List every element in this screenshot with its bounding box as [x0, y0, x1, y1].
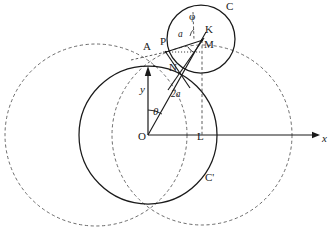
- point-dot-K: [201, 39, 203, 41]
- point-label-M: M: [204, 39, 214, 50]
- angle-theta-label: θ: [153, 106, 158, 117]
- y-axis-arrowhead: [145, 66, 151, 76]
- x-axis-arrowhead: [312, 132, 320, 138]
- segment-a-label: a: [178, 30, 183, 40]
- angle-arc-gamma: [188, 47, 193, 52]
- circle-C-label: C: [226, 1, 233, 12]
- diagram-canvas: [0, 0, 335, 238]
- point-dot-N: [178, 72, 180, 74]
- point-dot-P: [165, 51, 167, 53]
- point-label-A: A: [143, 41, 151, 52]
- point-label-P: P: [160, 36, 166, 47]
- angle-phi-label: φ: [189, 11, 195, 22]
- axis-x-label: x: [322, 133, 327, 144]
- circle-C-prime-label: C': [205, 172, 214, 183]
- segment-A-P-dashed: [131, 52, 166, 60]
- point-label-K: K: [205, 24, 213, 35]
- axis-y-label: y: [140, 84, 145, 95]
- segment-2a-label: 2a: [171, 90, 181, 100]
- point-label-O: O: [138, 131, 146, 142]
- point-dot-A: [153, 65, 155, 67]
- point-label-N: N: [169, 62, 177, 73]
- segment-P-K: [166, 40, 203, 52]
- geometric-figure: O A P K M N L C C' φ θ a 2a y x: [0, 0, 335, 238]
- point-label-L: L: [197, 131, 204, 142]
